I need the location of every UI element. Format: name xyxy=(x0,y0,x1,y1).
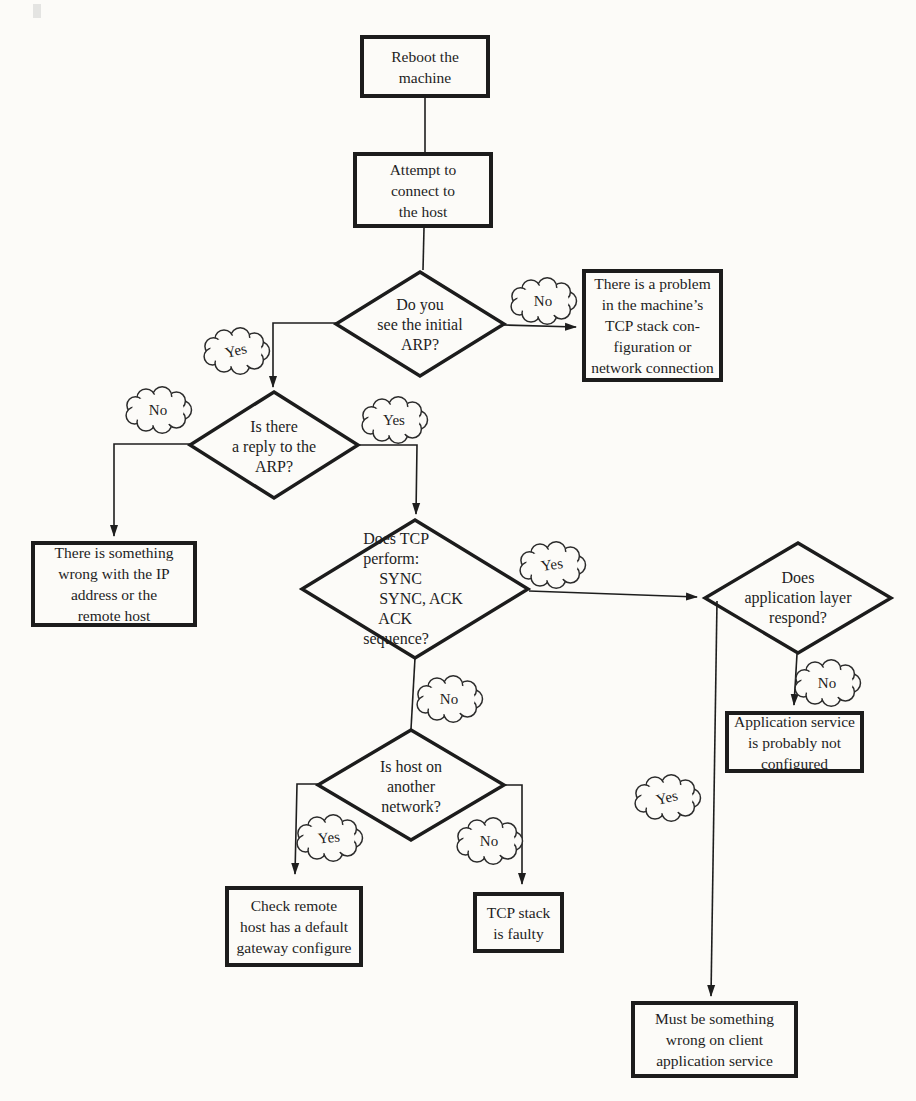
connector-arp-reply-no xyxy=(114,444,190,536)
connector-see-arp-no xyxy=(504,325,576,327)
connector-attempt-to-see-arp xyxy=(423,228,424,270)
decision-label-app-layer: Does application layer respond? xyxy=(744,568,851,628)
process-box-attempt-connect: Attempt to connect to the host xyxy=(353,152,493,228)
result-box-app-service-not-configured: Application service is probably not conf… xyxy=(725,711,864,773)
result-box-client-app-wrong: Must be something wrong on client applic… xyxy=(631,1001,798,1078)
scan-artifact xyxy=(33,4,41,18)
flowchart-figure: Reboot the machine Attempt to connect to… xyxy=(0,0,916,1101)
result-box-tcp-stack-faulty: TCP stack is faulty xyxy=(473,892,564,953)
cloud-label-no-see-arp: No xyxy=(534,293,552,310)
connector-arp-reply-yes xyxy=(358,445,417,514)
cloud-label-yes-tcp-sequence: Yes xyxy=(540,555,564,575)
decision-label-another-network: Is host on another network? xyxy=(380,757,442,817)
cloud-label-no-app-layer: No xyxy=(818,675,836,692)
result-box-ip-wrong: There is something wrong with the IP add… xyxy=(31,541,197,627)
decision-label-arp-reply: Is there a reply to the ARP? xyxy=(232,417,316,477)
cloud-label-yes-arp-reply: Yes xyxy=(383,412,405,429)
connector-tcp-sequence-no xyxy=(411,658,415,729)
connector-app-layer-yes xyxy=(711,601,717,996)
connector-see-arp-yes xyxy=(273,323,336,387)
decision-label-see-arp: Do you see the initial ARP? xyxy=(377,295,462,355)
cloud-label-no-tcp-sequence: No xyxy=(440,691,458,708)
result-box-tcp-stack-problem: There is a problem in the machine’s TCP … xyxy=(582,269,723,382)
cloud-label-no-arp-reply: No xyxy=(149,402,167,419)
cloud-label-yes-another-network: Yes xyxy=(317,828,340,847)
process-box-reboot: Reboot the machine xyxy=(360,35,490,98)
result-box-check-gateway: Check remote host has a default gateway … xyxy=(225,886,363,967)
decision-label-tcp-sequence: Does TCP perform: SYNC SYNC, ACK ACK seq… xyxy=(363,529,463,649)
connector-tcp-sequence-yes xyxy=(529,591,697,597)
cloud-label-no-another-network: No xyxy=(480,833,498,850)
